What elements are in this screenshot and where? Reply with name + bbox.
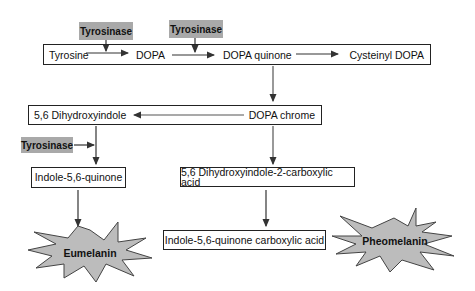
dopa-label: DOPA [136, 49, 165, 60]
dopa-quinone-label: DOPA quinone [223, 49, 292, 60]
tyrosinase-label-1: Tyrosinase [79, 22, 133, 40]
dhica-box: 5,6 Dihydroxyindole-2-carboxylic acid [180, 167, 355, 187]
iqca-label: Indole-5,6-quinone carboxylic acid [165, 235, 324, 246]
dhi-dopachrome-box: 5,6 Dihydroxyindole DOPA chrome [28, 105, 322, 125]
indole-quinone-label: Indole-5,6-quinone [35, 172, 123, 183]
eumelanin-label: Eumelanin [63, 247, 116, 259]
tyrosinase-label-2: Tyrosinase [169, 20, 223, 38]
cysteinyl-dopa-label: Cysteinyl DOPA [350, 49, 425, 60]
tyrosine-label: Tyrosine [49, 49, 89, 60]
iqca-box: Indole-5,6-quinone carboxylic acid [163, 230, 326, 250]
pheomelanin-label: Pheomelanin [362, 235, 427, 247]
dhica-label: 5,6 Dihydroxyindole-2-carboxylic acid [181, 167, 354, 188]
tyrosinase-label-3: Tyrosinase [21, 137, 73, 153]
top-pathway-box: Tyrosine DOPA DOPA quinone Cysteinyl DOP… [43, 44, 431, 65]
dopa-chrome-label: DOPA chrome [249, 110, 315, 121]
dihydroxyindole-label: 5,6 Dihydroxyindole [34, 110, 126, 121]
indole-quinone-box: Indole-5,6-quinone [31, 167, 126, 188]
